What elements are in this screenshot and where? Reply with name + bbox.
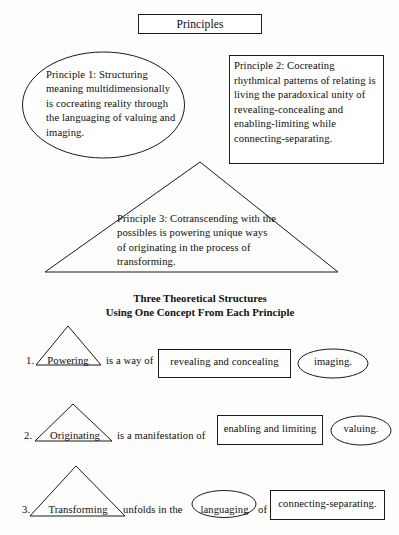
diagram-page: Principles Principle 1: Structuring mean… bbox=[0, 0, 399, 535]
structure-3-number: 3. bbox=[22, 504, 30, 515]
principle-1-text: Principle 1: Structuring meaning multidi… bbox=[46, 68, 178, 140]
structure-3-connector: unfolds in the bbox=[123, 504, 183, 515]
structure-2-number: 2. bbox=[24, 430, 32, 441]
section-heading: Three Theoretical Structures Using One C… bbox=[40, 292, 360, 319]
structure-1-connector: is a way of bbox=[106, 355, 153, 366]
structure-3-tail-connector: of bbox=[258, 504, 267, 515]
structure-1-number: 1. bbox=[26, 355, 34, 366]
structure-1-ellipse-label: imaging. bbox=[298, 356, 368, 367]
principle-3-text: Principle 3: Cotranscending with the pos… bbox=[117, 212, 277, 270]
structure-2-triangle-label: Originating bbox=[40, 430, 110, 441]
structure-2-connector: is a manifestation of bbox=[117, 430, 205, 441]
structure-1-triangle-label: Powering bbox=[38, 355, 98, 366]
structure-2-ellipse-label: valuing. bbox=[331, 423, 391, 434]
structure-3-ellipse-label: languaging bbox=[194, 504, 255, 515]
section-heading-line-1: Three Theoretical Structures bbox=[40, 292, 360, 306]
principle-2-text: Principle 2: Cocreating rhythmical patte… bbox=[234, 59, 382, 147]
structure-3-rect-label: connecting-separating. bbox=[270, 498, 385, 509]
section-heading-line-2: Using One Concept From Each Principle bbox=[40, 306, 360, 320]
structure-2-rect-label: enabling and limiting bbox=[217, 423, 323, 434]
structure-3-triangle-label: Transforming bbox=[40, 504, 116, 515]
structure-1-rect-label: revealing and concealing bbox=[158, 356, 291, 367]
page-title: Principles bbox=[138, 16, 262, 32]
